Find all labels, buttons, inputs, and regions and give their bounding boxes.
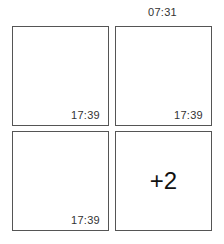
tile-timestamp: 17:39 xyxy=(71,214,100,226)
media-tile[interactable]: 17:39 xyxy=(115,26,212,126)
overflow-count: +2 xyxy=(116,132,211,230)
media-tile[interactable]: 17:39 xyxy=(12,131,109,231)
tile-timestamp: 17:39 xyxy=(71,109,100,121)
header-time: 07:31 xyxy=(148,6,177,18)
tile-timestamp: 17:39 xyxy=(174,109,203,121)
more-items-tile[interactable]: +2 xyxy=(115,131,212,231)
media-tile[interactable]: 17:39 xyxy=(12,26,109,126)
